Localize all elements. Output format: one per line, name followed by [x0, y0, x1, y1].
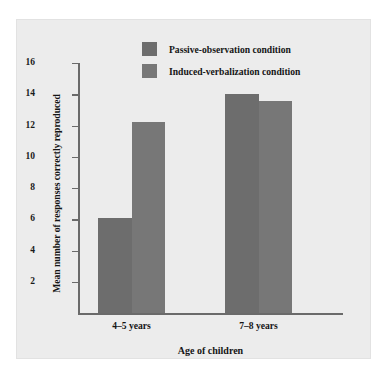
y-tick-mark: [72, 63, 78, 64]
y-tick-mark: [72, 219, 78, 220]
x-axis-title: Age of children: [78, 345, 343, 356]
legend-swatch-icon: [142, 64, 157, 78]
legend-item: Induced-verbalization condition: [142, 60, 357, 82]
x-axis-line: [78, 313, 343, 315]
legend-item: Passive-observation condition: [142, 38, 357, 60]
y-tick-mark: [72, 94, 78, 95]
y-tick-label: 10: [0, 152, 35, 162]
y-tick-mark: [72, 251, 78, 252]
y-tick-label: 12: [0, 121, 35, 131]
x-axis-category-label: 7–8 years: [199, 320, 319, 331]
x-axis-category-label: 4–5 years: [72, 320, 192, 331]
y-tick-label: 4: [0, 246, 35, 256]
figure-bar-chart: 246810121416 4–5 years7–8 years Mean num…: [0, 0, 387, 378]
y-tick-mark: [72, 188, 78, 189]
chart-panel: 246810121416 4–5 years7–8 years Mean num…: [17, 20, 370, 358]
chart-legend: Passive-observation conditionInduced-ver…: [142, 38, 357, 82]
y-tick-label: 16: [0, 58, 35, 68]
y-tick-mark: [72, 126, 78, 127]
y-axis-title: Mean number of responses correctly repro…: [51, 79, 62, 309]
y-tick-label: 8: [0, 183, 35, 193]
bar: [225, 94, 259, 313]
y-tick-label: 2: [0, 277, 35, 287]
y-tick-label: 14: [0, 90, 35, 100]
y-tick-mark: [72, 157, 78, 158]
bar: [259, 101, 293, 314]
legend-label: Induced-verbalization condition: [169, 66, 300, 77]
legend-swatch-icon: [142, 42, 157, 56]
bar: [98, 218, 132, 313]
legend-label: Passive-observation condition: [169, 44, 291, 55]
y-tick-mark: [72, 282, 78, 283]
y-tick-label: 6: [0, 215, 35, 225]
bar: [132, 122, 166, 313]
y-axis-line: [78, 63, 80, 314]
